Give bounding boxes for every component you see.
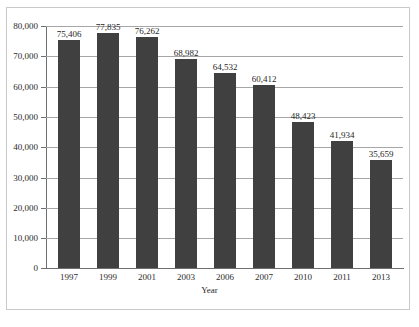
bar-value-label: 60,412 bbox=[241, 75, 287, 84]
bar-chart-figure: 80,000 70,000 60,000 50,000 40,000 30,00… bbox=[0, 0, 419, 327]
bar-2001[interactable] bbox=[136, 37, 158, 268]
y-axis-tick-labels: 80,000 70,000 60,000 50,000 40,000 30,00… bbox=[0, 0, 38, 327]
y-tick-label: 80,000 bbox=[13, 22, 38, 31]
y-tick-label: 0 bbox=[34, 264, 39, 273]
plot-area: 75,406 77,835 76,262 68,982 64,532 60,41… bbox=[46, 26, 403, 268]
y-tick-label: 70,000 bbox=[13, 52, 38, 61]
bar-2013[interactable] bbox=[370, 160, 392, 268]
bar-2010[interactable] bbox=[292, 122, 314, 269]
bar-value-label: 68,982 bbox=[163, 49, 209, 58]
y-tick-label: 30,000 bbox=[13, 174, 38, 183]
bar-value-label: 76,262 bbox=[124, 27, 170, 36]
bar-value-label: 64,532 bbox=[202, 63, 248, 72]
y-tick-label: 20,000 bbox=[13, 204, 38, 213]
x-axis-title: Year bbox=[0, 286, 419, 295]
x-tick-label-2013: 2013 bbox=[358, 273, 404, 282]
x-axis-line bbox=[46, 268, 404, 269]
y-tick-label: 40,000 bbox=[13, 143, 38, 152]
bar-2003[interactable] bbox=[175, 59, 197, 268]
y-tick-label: 10,000 bbox=[13, 234, 38, 243]
y-tick-label: 50,000 bbox=[13, 113, 38, 122]
bar-2006[interactable] bbox=[214, 73, 236, 268]
bar-1997[interactable] bbox=[58, 40, 80, 268]
bar-value-label: 41,934 bbox=[319, 131, 365, 140]
bar-value-label: 35,659 bbox=[358, 150, 404, 159]
bar-value-label: 48,423 bbox=[280, 112, 326, 121]
y-tick-label: 60,000 bbox=[13, 83, 38, 92]
bar-2007[interactable] bbox=[253, 85, 275, 268]
bar-2011[interactable] bbox=[331, 141, 353, 268]
bar-1999[interactable] bbox=[97, 33, 119, 268]
